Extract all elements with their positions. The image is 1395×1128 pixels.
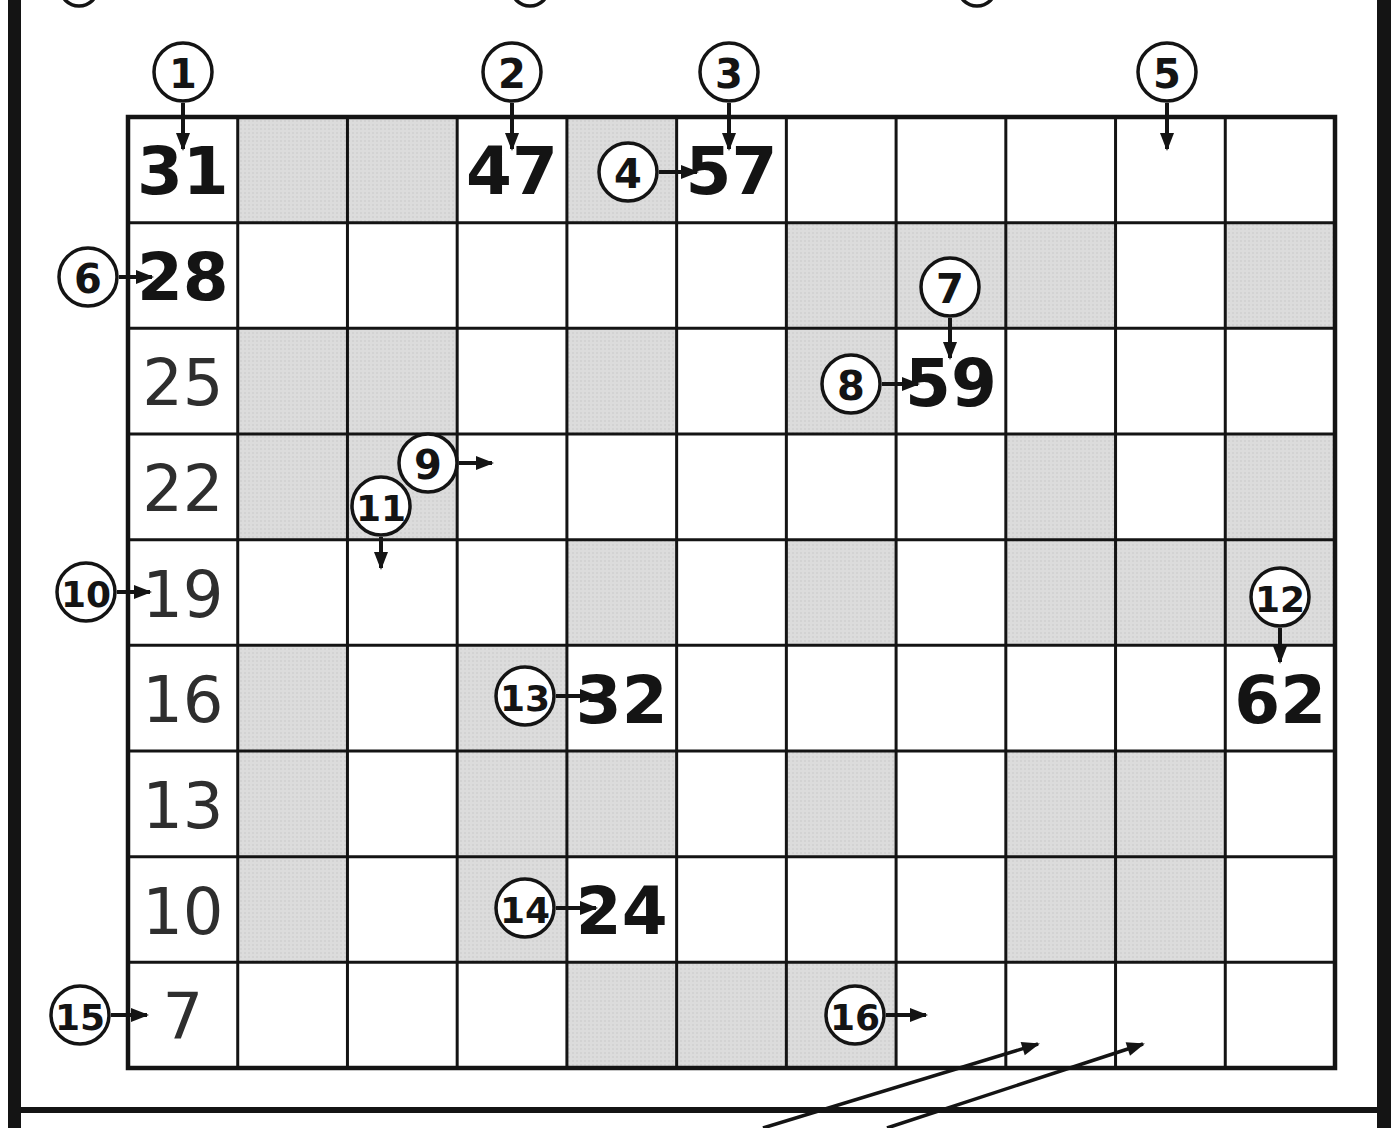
grid-cell-r9c9[interactable] <box>1006 962 1116 1068</box>
marker-label-15: 15 <box>55 997 105 1038</box>
marker-label-5: 5 <box>1153 51 1181 97</box>
grid-cell-r8c6[interactable] <box>677 857 787 963</box>
grid-cell-r8c7[interactable] <box>786 857 896 963</box>
cell-value-r9c1: 7 <box>163 980 204 1054</box>
worksheet-page: 3147572825592219163262131024712345678910… <box>0 0 1395 1128</box>
shaded-cell-r9c6 <box>677 962 787 1068</box>
shaded-cell-r9c5 <box>567 962 677 1068</box>
grid-cell-r6c8[interactable] <box>896 645 1006 751</box>
grid-cell-r1c8[interactable] <box>896 117 1006 223</box>
grid-cell-r3c11[interactable] <box>1225 328 1335 434</box>
grid-cell-r2c4[interactable] <box>457 223 567 329</box>
cell-value-r8c5: 24 <box>576 873 668 950</box>
grid-cell-r3c10[interactable] <box>1116 328 1226 434</box>
grid-cell-r3c4[interactable] <box>457 328 567 434</box>
grid-cell-r9c3[interactable] <box>347 962 457 1068</box>
marker-label-16: 16 <box>830 997 880 1038</box>
shaded-cell-r7c4 <box>457 751 567 857</box>
grid-cell-r7c8[interactable] <box>896 751 1006 857</box>
shaded-cell-r8c10 <box>1116 857 1226 963</box>
page-right-border <box>1377 0 1391 1128</box>
grid-cell-r9c11[interactable] <box>1225 962 1335 1068</box>
puzzle-grid-scene: 3147572825592219163262131024712345678910… <box>0 0 1395 1128</box>
grid-cell-r5c8[interactable] <box>896 540 1006 646</box>
marker-label-7: 7 <box>936 266 964 312</box>
shaded-cell-r4c2 <box>238 434 348 540</box>
grid-cell-r4c10[interactable] <box>1116 434 1226 540</box>
grid-cell-r2c2[interactable] <box>238 223 348 329</box>
shaded-cell-r1c2 <box>238 117 348 223</box>
marker-label-4: 4 <box>614 151 642 197</box>
shaded-cell-r4c9 <box>1006 434 1116 540</box>
section-separator-line <box>8 1107 1391 1113</box>
grid-cell-r7c6[interactable] <box>677 751 787 857</box>
shaded-cell-r6c2 <box>238 645 348 751</box>
grid-cell-r1c9[interactable] <box>1006 117 1116 223</box>
grid-cell-r4c7[interactable] <box>786 434 896 540</box>
grid-cell-r5c4[interactable] <box>457 540 567 646</box>
grid-cell-r9c2[interactable] <box>238 962 348 1068</box>
page-left-border <box>8 0 21 1128</box>
shaded-cell-r7c2 <box>238 751 348 857</box>
cell-value-r5c1: 19 <box>142 558 223 632</box>
grid-cell-r3c9[interactable] <box>1006 328 1116 434</box>
grid-cell-r5c3[interactable] <box>347 540 457 646</box>
shaded-cell-r4c11 <box>1225 434 1335 540</box>
shaded-cell-r2c9 <box>1006 223 1116 329</box>
cell-value-r8c1: 10 <box>142 875 223 949</box>
grid-cell-r4c6[interactable] <box>677 434 787 540</box>
grid-cell-r6c7[interactable] <box>786 645 896 751</box>
grid-cell-r2c5[interactable] <box>567 223 677 329</box>
grid-cell-r4c4[interactable] <box>457 434 567 540</box>
marker-label-2: 2 <box>498 51 526 97</box>
marker-label-8: 8 <box>837 363 865 409</box>
grid-cell-r4c8[interactable] <box>896 434 1006 540</box>
grid-cell-r6c10[interactable] <box>1116 645 1226 751</box>
cell-value-r6c1: 16 <box>142 663 223 737</box>
grid-cell-r4c5[interactable] <box>567 434 677 540</box>
shaded-cell-r3c3 <box>347 328 457 434</box>
top-clipped-marker-circle-2 <box>511 0 549 6</box>
grid-cell-r2c3[interactable] <box>347 223 457 329</box>
marker-label-1: 1 <box>169 51 197 97</box>
marker-label-11: 11 <box>356 488 406 529</box>
shaded-cell-r8c2 <box>238 857 348 963</box>
grid-cell-r8c11[interactable] <box>1225 857 1335 963</box>
grid-cell-r9c10[interactable] <box>1116 962 1226 1068</box>
shaded-cell-r5c5 <box>567 540 677 646</box>
shaded-cell-r7c10 <box>1116 751 1226 857</box>
grid-cell-r1c10[interactable] <box>1116 117 1226 223</box>
shaded-cell-r2c11 <box>1225 223 1335 329</box>
cell-value-r7c1: 13 <box>142 769 223 843</box>
grid-cell-r6c9[interactable] <box>1006 645 1116 751</box>
grid-cell-r2c10[interactable] <box>1116 223 1226 329</box>
grid-cell-r2c6[interactable] <box>677 223 787 329</box>
grid-cell-r5c6[interactable] <box>677 540 787 646</box>
grid-cell-r8c3[interactable] <box>347 857 457 963</box>
top-clipped-marker-circle-3 <box>958 0 996 6</box>
grid-cell-r8c8[interactable] <box>896 857 1006 963</box>
grid-cell-r1c11[interactable] <box>1225 117 1335 223</box>
cell-value-r6c11: 62 <box>1234 662 1326 739</box>
shaded-cell-r1c3 <box>347 117 457 223</box>
grid-cell-r6c6[interactable] <box>677 645 787 751</box>
marker-label-13: 13 <box>500 678 550 719</box>
shaded-cell-r5c9 <box>1006 540 1116 646</box>
marker-label-3: 3 <box>715 51 743 97</box>
grid-cell-r5c2[interactable] <box>238 540 348 646</box>
cell-value-r3c1: 25 <box>142 346 223 420</box>
grid-cell-r1c7[interactable] <box>786 117 896 223</box>
top-clipped-marker-circle-1 <box>60 0 98 6</box>
shaded-cell-r7c9 <box>1006 751 1116 857</box>
grid-cell-r7c11[interactable] <box>1225 751 1335 857</box>
cell-value-r4c1: 22 <box>142 452 223 526</box>
shaded-cell-r3c2 <box>238 328 348 434</box>
cell-value-r6c5: 32 <box>576 662 668 739</box>
grid-cell-r6c3[interactable] <box>347 645 457 751</box>
grid-cell-r9c4[interactable] <box>457 962 567 1068</box>
cell-value-r1c6: 57 <box>686 133 778 210</box>
grid-cell-r3c6[interactable] <box>677 328 787 434</box>
shaded-cell-r5c10 <box>1116 540 1226 646</box>
grid-cell-r7c3[interactable] <box>347 751 457 857</box>
marker-label-6: 6 <box>74 256 102 302</box>
